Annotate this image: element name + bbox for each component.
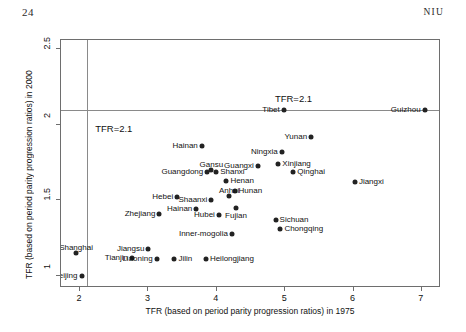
x-tick: [79, 287, 80, 291]
x-tick: [147, 287, 148, 291]
point-label-hubei: Hubei: [194, 211, 215, 219]
data-point-beijing: [79, 273, 84, 278]
y-tick: [56, 199, 60, 200]
point-label-chongqing: Chongqing: [284, 225, 323, 233]
data-point-sichuan: [273, 217, 278, 222]
point-label-ningxia: Ningxia: [251, 148, 278, 156]
point-label-sichuan: Sichuan: [280, 216, 309, 224]
data-point-chongqing: [278, 227, 283, 232]
plot-area: TFR=2.1TFR=2.1GuizhouTibetYunanNingxiaXi…: [61, 40, 439, 286]
point-label-tibet: Tibet: [262, 106, 280, 114]
reference-line-horizontal: [61, 110, 439, 111]
x-tick: [421, 287, 422, 291]
y-tick-label: 1: [42, 264, 52, 269]
point-label-shaanxi: Shaanxi: [178, 196, 207, 204]
page-header: 24 NIU: [0, 0, 466, 26]
plot-frame: TFR=2.1TFR=2.1GuizhouTibetYunanNingxiaXi…: [60, 39, 440, 287]
point-label-hunan: Hunan: [239, 187, 263, 195]
point-label-anhui: Anhui: [219, 187, 239, 195]
x-tick-label: 5: [282, 293, 287, 303]
y-axis-title: TFR (based on period parity progression …: [24, 51, 34, 279]
data-point-qinghai: [291, 169, 296, 174]
page-number: 24: [22, 6, 34, 18]
point-label-jiangxi: Jiangxi: [359, 178, 384, 186]
x-axis-title: TFR (based on period parity progression …: [60, 306, 440, 316]
y-tick: [56, 124, 60, 125]
data-point-guangxi: [255, 163, 260, 168]
annotation-tfr-1: TFR=2.1: [95, 123, 132, 134]
x-tick-label: 2: [77, 293, 82, 303]
point-label-guangdong: Guangdong: [161, 168, 203, 176]
point-label-yunan: Yunan: [284, 133, 307, 141]
scatter-figure: TFR=2.1TFR=2.1GuizhouTibetYunanNingxiaXi…: [0, 26, 466, 332]
point-label-henan: Henan: [230, 177, 254, 185]
data-point-inner-mogolia: [229, 231, 234, 236]
data-point-henan: [224, 178, 229, 183]
x-tick-label: 3: [145, 293, 150, 303]
point-label-zhejiang: Zhejiang: [125, 210, 156, 218]
x-tick-label: 6: [350, 293, 355, 303]
data-point-shanxi: [214, 169, 219, 174]
annotation-tfr-0: TFR=2.1: [275, 93, 312, 104]
data-point-hainan: [199, 143, 204, 148]
x-tick: [353, 287, 354, 291]
data-point-hebei: [175, 195, 180, 200]
data-point-tibet: [281, 107, 286, 112]
y-tick-label: 2.5: [42, 37, 52, 50]
point-label-beijing: Beijing: [61, 272, 78, 280]
point-label-jilin: Jilin: [178, 255, 192, 263]
running-head: NIU: [424, 7, 445, 17]
data-point-liaoning: [154, 257, 159, 262]
point-label-fujian: Fujian: [225, 212, 247, 220]
point-label-inner-mogolia: Inner-mogolia: [179, 230, 228, 238]
point-label-hainan2: Hainan: [167, 205, 192, 213]
point-label-qinghai: Qinghai: [297, 168, 325, 176]
point-label-hainan: Hainan: [172, 142, 197, 150]
y-tick: [56, 48, 60, 49]
data-point-jiangxi: [352, 180, 357, 185]
y-tick: [56, 275, 60, 276]
point-label-heilongjiang: Heilongjiang: [210, 255, 254, 263]
x-tick-label: 7: [418, 293, 423, 303]
point-label-shanxi: Shanxi: [220, 168, 244, 176]
data-point-zhejiang: [157, 211, 162, 216]
data-point-fujian: [233, 205, 238, 210]
data-point-xinjiang: [276, 162, 281, 167]
data-point-guizhou: [422, 107, 427, 112]
point-label-jiangsu: Jiangsu: [117, 245, 145, 253]
point-label-hebei: Hebei: [152, 193, 173, 201]
y-tick-label: 2: [42, 113, 52, 118]
data-point-heilongjiang: [203, 257, 208, 262]
x-tick: [284, 287, 285, 291]
x-tick-label: 4: [213, 293, 218, 303]
data-point-ningxia: [279, 149, 284, 154]
point-label-liaoning: Liaoning: [122, 255, 152, 263]
data-point-guangdong: [205, 169, 210, 174]
data-point-yunan: [309, 134, 314, 139]
x-tick: [216, 287, 217, 291]
y-tick-label: 1.5: [42, 188, 52, 201]
point-label-shanghai: Shanghai: [61, 244, 93, 252]
data-point-jiangsu: [146, 246, 151, 251]
data-point-hubei: [216, 213, 221, 218]
point-label-guizhou: Guizhou: [391, 106, 421, 114]
data-point-jilin: [172, 257, 177, 262]
data-point-shaanxi: [209, 198, 214, 203]
